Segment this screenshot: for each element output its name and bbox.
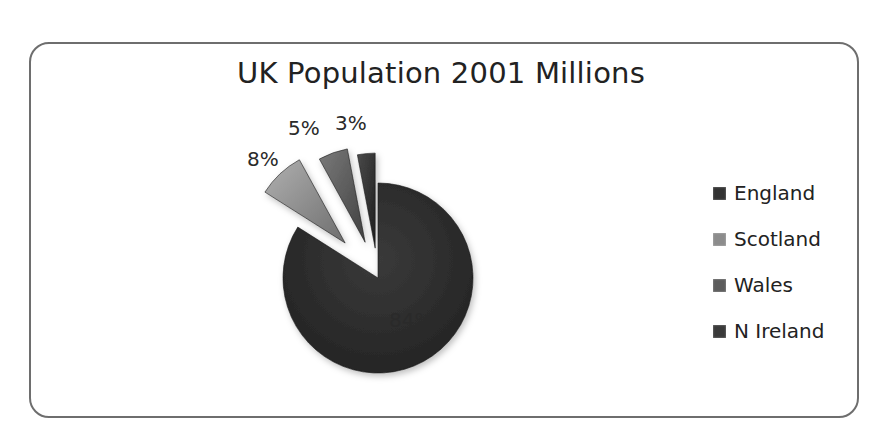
legend-item-scotland: Scotland [713, 216, 825, 262]
legend: England Scotland Wales N Ireland [713, 170, 825, 354]
label-nireland: 3% [335, 111, 367, 135]
legend-label: Scotland [734, 227, 821, 251]
legend-item-nireland: N Ireland [713, 308, 825, 354]
legend-swatch-england [713, 187, 726, 200]
slice-nireland [357, 153, 375, 248]
label-wales: 5% [288, 116, 320, 140]
label-scotland: 8% [247, 147, 279, 171]
legend-label: Wales [734, 273, 793, 297]
legend-swatch-scotland [713, 233, 726, 246]
legend-item-wales: Wales [713, 262, 825, 308]
legend-swatch-wales [713, 279, 726, 292]
legend-swatch-nireland [713, 325, 726, 338]
label-england: 84% [389, 308, 433, 332]
legend-item-england: England [713, 170, 825, 216]
legend-label: N Ireland [734, 319, 825, 343]
legend-label: England [734, 181, 815, 205]
